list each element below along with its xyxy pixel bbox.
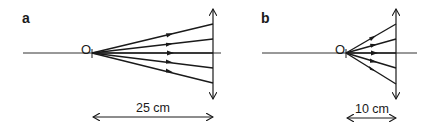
panel-b-label: b [261, 10, 270, 26]
panel-a-rays [92, 24, 213, 83]
arrowhead-icon [369, 36, 376, 41]
arrowhead-icon [166, 33, 173, 37]
panel-b-point-o-label: O [335, 42, 345, 57]
panel-b-distance-label: 10 cm [355, 102, 389, 116]
panel-a-ray-arrowheads [166, 33, 174, 72]
panel-a-point-o-label: O [81, 42, 91, 57]
panel-a-label: a [22, 10, 30, 26]
panel-b: b O 10 cm [261, 9, 417, 118]
arrowhead-icon [370, 44, 377, 48]
arrowhead-icon [166, 68, 173, 72]
optics-diagram: a O 25 cm b O [0, 0, 437, 129]
arrowhead-icon [167, 51, 174, 56]
panel-a-distance-label: 25 cm [136, 101, 170, 115]
arrowhead-icon [371, 51, 378, 56]
panel-a: a O 25 cm [22, 9, 221, 117]
arrowhead-icon [370, 59, 377, 63]
